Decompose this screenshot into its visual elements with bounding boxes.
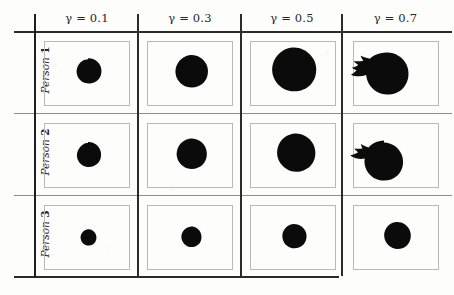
blob-layer xyxy=(251,206,335,269)
cell-person-1-gamma-0-7 xyxy=(353,41,439,106)
blob-layer xyxy=(354,124,438,187)
blob-layer xyxy=(45,42,129,105)
column-header-gamma-0-5: γ = 0.5 xyxy=(242,9,342,27)
column-header-gamma-0-7: γ = 0.7 xyxy=(343,9,448,27)
blob-layer xyxy=(354,42,438,105)
blob-layer xyxy=(148,42,232,105)
blob-person-3-gamma-0-3 xyxy=(176,224,206,254)
label-column-rule xyxy=(34,14,36,278)
blob-person-2-gamma-0-3 xyxy=(168,135,214,181)
cell-person-3-gamma-0-1 xyxy=(44,205,130,270)
cell-person-2-gamma-0-3 xyxy=(147,123,233,188)
column-divider-2 xyxy=(240,14,242,276)
column-divider-1 xyxy=(137,14,139,276)
blob-layer xyxy=(251,42,335,105)
blob-person-3-gamma-0-5 xyxy=(276,221,312,257)
row-separator-2 xyxy=(14,195,452,196)
receptive-field-figure: γ = 0.1 γ = 0.3 γ = 0.5 γ = 0.7 Person 1… xyxy=(0,0,454,295)
blob-layer xyxy=(45,124,129,187)
cell-person-1-gamma-0-3 xyxy=(147,41,233,106)
column-header-gamma-0-3: γ = 0.3 xyxy=(139,9,241,27)
row-separator-1 xyxy=(14,113,452,114)
cell-person-2-gamma-0-1 xyxy=(44,123,130,188)
blob-person-3-gamma-0-1 xyxy=(76,227,100,251)
cell-person-1-gamma-0-1 xyxy=(44,41,130,106)
blob-person-2-gamma-0-5 xyxy=(267,130,323,186)
blob-person-3-gamma-0-7 xyxy=(377,219,417,259)
blob-layer xyxy=(251,124,335,187)
blob-layer xyxy=(148,124,232,187)
cell-person-1-gamma-0-5 xyxy=(250,41,336,106)
blob-person-2-gamma-0-7 xyxy=(346,132,412,186)
column-divider-3 xyxy=(341,14,343,276)
cell-person-3-gamma-0-3 xyxy=(147,205,233,270)
blob-person-1-gamma-0-7 xyxy=(342,47,420,105)
column-header-gamma-0-1: γ = 0.1 xyxy=(36,9,138,27)
blob-person-1-gamma-0-3 xyxy=(166,51,216,101)
blob-person-1-gamma-0-1 xyxy=(68,55,108,95)
blob-person-2-gamma-0-1 xyxy=(69,139,107,177)
header-rule xyxy=(14,31,452,33)
blob-layer xyxy=(148,206,232,269)
cell-person-2-gamma-0-5 xyxy=(250,123,336,188)
cell-person-3-gamma-0-7 xyxy=(353,205,439,270)
bottom-rule xyxy=(14,276,339,278)
blob-layer xyxy=(45,206,129,269)
cell-person-2-gamma-0-7 xyxy=(353,123,439,188)
blob-layer xyxy=(354,206,438,269)
blob-person-1-gamma-0-5 xyxy=(261,44,325,108)
cell-person-3-gamma-0-5 xyxy=(250,205,336,270)
